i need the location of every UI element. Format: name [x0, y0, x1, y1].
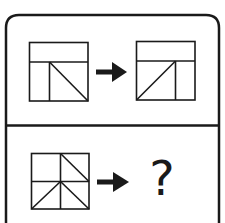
outer-frame [6, 15, 219, 223]
arrow-right-icon [96, 62, 127, 82]
puzzle-canvas [0, 0, 225, 223]
arrow-right-icon [97, 172, 129, 192]
answer-placeholder: ? [148, 150, 176, 206]
question-source-figure [32, 154, 90, 210]
example-result-figure [137, 42, 196, 101]
example-source-figure [30, 43, 89, 102]
